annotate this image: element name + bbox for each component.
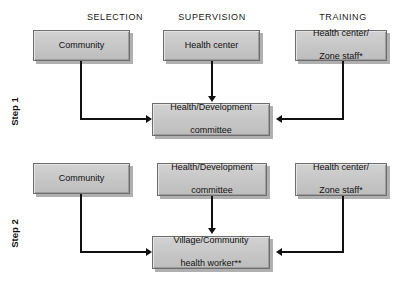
- edge-step1-training-vertical: [342, 61, 344, 119]
- node-step2-village-health-worker-label: Village/Community health worker**: [174, 235, 249, 270]
- edge-step2-selection-arrowhead: [146, 248, 152, 256]
- edge-step2-training-arrowhead: [276, 248, 282, 256]
- column-header-selection: SELECTION: [87, 12, 143, 22]
- step-label-1: Step 1: [9, 92, 20, 132]
- node-step1-committee-line1: Health/Development: [170, 102, 252, 114]
- node-step2-hczs-line2: Zone staff*: [313, 185, 369, 197]
- node-step1-health-center: Health center: [163, 30, 260, 61]
- node-step1-hczs-line2: Zone staff*: [313, 51, 369, 63]
- edge-step2-selection-horizontal: [80, 251, 146, 253]
- node-step1-health-center-label: Health center: [185, 40, 239, 52]
- node-step2-community: Community: [33, 163, 130, 194]
- node-step2-committee-line1: Health/Development: [171, 162, 253, 174]
- edge-step1-selection-arrowhead: [146, 115, 152, 123]
- edge-step1-supervision-arrowhead: [208, 96, 216, 102]
- edge-step2-supervision-arrowhead: [208, 228, 216, 234]
- node-step2-committee: Health/Development committee: [157, 163, 267, 196]
- node-step2-community-label: Community: [59, 173, 105, 185]
- node-step2-health-center-zone-staff: Health center/ Zone staff*: [295, 163, 387, 196]
- node-step1-health-center-zone-staff-label: Health center/ Zone staff*: [313, 28, 369, 63]
- node-step2-hczs-line1: Health center/: [313, 162, 369, 174]
- node-step2-worker-line1: Village/Community: [174, 235, 249, 247]
- node-step1-committee-line2: committee: [170, 125, 252, 137]
- diagram-canvas: SELECTION SUPERVISION TRAINING Step 1 St…: [0, 0, 393, 284]
- step-label-2: Step 2: [9, 214, 20, 254]
- node-step1-community: Community: [33, 30, 130, 61]
- node-step2-worker-line2: health worker**: [174, 258, 249, 270]
- edge-step1-selection-vertical: [80, 61, 82, 119]
- edge-step2-training-vertical: [342, 196, 344, 252]
- node-step1-community-label: Community: [59, 40, 105, 52]
- edge-step1-supervision-vertical: [211, 61, 213, 97]
- edge-step1-training-arrowhead: [276, 115, 282, 123]
- column-header-supervision: SUPERVISION: [178, 12, 245, 22]
- edge-step2-supervision-vertical: [211, 196, 213, 229]
- edge-step2-selection-vertical: [80, 194, 82, 252]
- node-step2-committee-label: Health/Development committee: [171, 162, 253, 197]
- node-step1-committee: Health/Development committee: [152, 103, 270, 136]
- column-header-training: TRAINING: [319, 12, 366, 22]
- node-step1-health-center-zone-staff: Health center/ Zone staff*: [295, 30, 387, 61]
- node-step2-health-center-zone-staff-label: Health center/ Zone staff*: [313, 162, 369, 197]
- edge-step2-training-horizontal: [282, 251, 344, 253]
- node-step1-hczs-line1: Health center/: [313, 28, 369, 40]
- edge-step1-training-horizontal: [282, 118, 344, 120]
- node-step2-village-health-worker: Village/Community health worker**: [152, 236, 270, 269]
- node-step1-committee-label: Health/Development committee: [170, 102, 252, 137]
- edge-step1-selection-horizontal: [80, 118, 146, 120]
